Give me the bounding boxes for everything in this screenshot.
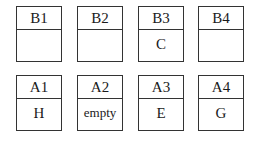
slot-label: B2 — [78, 7, 122, 30]
slot-a2: A2 empty — [77, 75, 123, 131]
slot-content: H — [17, 99, 61, 130]
slot-label: B4 — [199, 7, 243, 30]
slot-b2: B2 — [77, 6, 123, 62]
slot-content: C — [139, 30, 183, 61]
slot-content — [17, 30, 61, 61]
slot-a3: A3 E — [138, 75, 184, 131]
slot-b4: B4 — [198, 6, 244, 62]
slot-content — [78, 30, 122, 61]
slot-content: G — [199, 99, 243, 130]
slot-label: A1 — [17, 76, 61, 99]
slot-content: empty — [78, 99, 122, 130]
slot-label: A4 — [199, 76, 243, 99]
slot-a1: A1 H — [16, 75, 62, 131]
slot-b3: B3 C — [138, 6, 184, 62]
slot-label: A3 — [139, 76, 183, 99]
slot-content — [199, 30, 243, 61]
slot-b1: B1 — [16, 6, 62, 62]
slot-a4: A4 G — [198, 75, 244, 131]
slot-label: B3 — [139, 7, 183, 30]
slot-label: B1 — [17, 7, 61, 30]
slot-label: A2 — [78, 76, 122, 99]
slot-content: E — [139, 99, 183, 130]
